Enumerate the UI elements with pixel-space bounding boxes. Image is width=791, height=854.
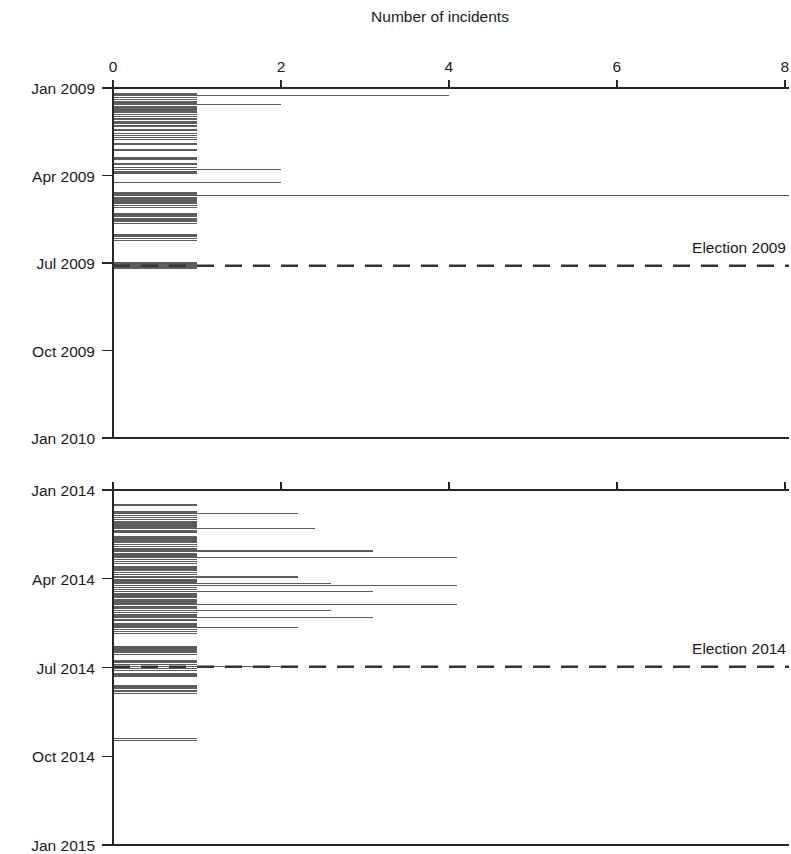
y-tick-label-jan-2009: Jan 2009 — [31, 80, 95, 97]
y-tick-label-jan-2010: Jan 2010 — [31, 430, 95, 447]
x-tick-label-0: 0 — [109, 58, 118, 75]
x-tick-label-6: 6 — [613, 58, 622, 75]
y-tick-label-oct-2014: Oct 2014 — [32, 748, 95, 765]
chart-title: Number of incidents — [371, 8, 509, 25]
y-tick-label-jan-2015: Jan 2015 — [31, 837, 95, 854]
election-annotation-label: Election 2014 — [692, 640, 786, 657]
y-tick-label-oct-2009: Oct 2009 — [32, 343, 95, 360]
x-tick-label-8: 8 — [780, 58, 789, 75]
panel-2009: 02468Jan 2009Apr 2009Jul 2009Oct 2009Jan… — [31, 58, 789, 447]
y-tick-label-apr-2009: Apr 2009 — [32, 168, 95, 185]
y-tick-label-jul-2009: Jul 2009 — [36, 255, 95, 272]
y-tick-label-jul-2014: Jul 2014 — [36, 660, 95, 677]
y-tick-label-apr-2014: Apr 2014 — [32, 571, 95, 588]
chart-canvas: Number of incidents 02468Jan 2009Apr 200… — [0, 0, 791, 854]
y-tick-label-jan-2014: Jan 2014 — [31, 482, 95, 499]
x-tick-label-2: 2 — [277, 58, 286, 75]
panel-2014: Jan 2014Apr 2014Jul 2014Oct 2014Jan 2015… — [31, 482, 789, 854]
election-annotation-label: Election 2009 — [692, 239, 786, 256]
x-tick-label-4: 4 — [445, 58, 454, 75]
incidents-timeline-figure: Number of incidents 02468Jan 2009Apr 200… — [0, 0, 791, 854]
